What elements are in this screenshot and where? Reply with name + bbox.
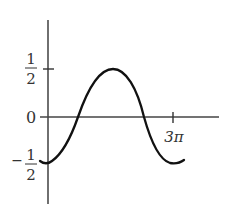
y-label-neg-sign: − <box>11 152 23 168</box>
x-label-3pi: 3π <box>164 128 185 146</box>
y-label-half-num: 1 <box>26 50 36 68</box>
chart: 1 2 0 − 1 2 3π <box>0 0 235 204</box>
curve <box>40 69 184 163</box>
y-label-neg-num: 1 <box>26 146 36 164</box>
y-label-half-den: 2 <box>26 70 36 88</box>
y-label-neg-den: 2 <box>26 166 36 184</box>
y-label-zero: 0 <box>26 108 36 127</box>
